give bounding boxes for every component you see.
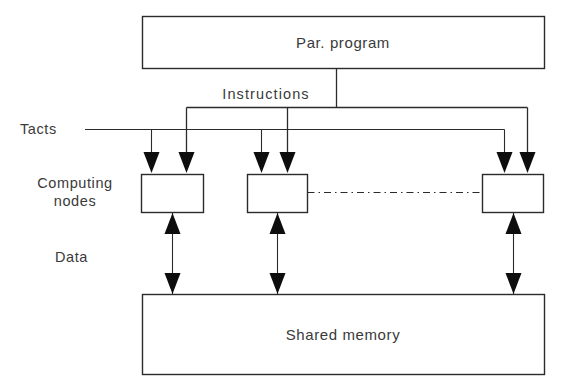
data-arrow-down-node-2	[270, 273, 286, 294]
shared-memory-block: Shared memory	[143, 295, 545, 375]
instructions-label: Instructions	[222, 86, 309, 102]
computing-nodes-group: Computing nodes	[37, 175, 543, 213]
data-arrow-down-node-3	[506, 273, 522, 294]
computing-nodes-label-line-2: nodes	[54, 193, 97, 209]
instructions-arrow-node-2	[280, 152, 296, 173]
data-arrow-up-node-1	[165, 213, 181, 234]
instructions-bus-group: Instructions	[179, 69, 536, 174]
computing-node-2	[248, 175, 308, 213]
data-links-group: Data	[55, 213, 522, 294]
tacts-arrow-node-3	[497, 152, 513, 173]
tacts-bus-group: Tacts	[20, 121, 513, 173]
computing-nodes-label-line-1: Computing	[37, 175, 113, 191]
tacts-arrow-node-1	[144, 152, 160, 173]
architecture-diagram: Par. program Instructions	[0, 0, 563, 390]
data-arrow-up-node-3	[506, 213, 522, 234]
shared-memory-label: Shared memory	[286, 326, 401, 343]
computing-node-1	[142, 175, 204, 213]
data-label: Data	[55, 249, 88, 265]
par-program-block: Par. program	[143, 17, 545, 69]
instructions-arrow-node-3	[520, 152, 536, 173]
tacts-label: Tacts	[20, 121, 57, 137]
instructions-arrow-node-1	[179, 152, 195, 173]
computing-node-3	[483, 175, 544, 213]
data-arrow-down-node-1	[165, 273, 181, 294]
par-program-label: Par. program	[296, 34, 390, 51]
data-arrow-up-node-2	[270, 213, 286, 234]
diagram-canvas: Par. program Instructions	[0, 0, 563, 390]
tacts-arrow-node-2	[254, 152, 270, 173]
